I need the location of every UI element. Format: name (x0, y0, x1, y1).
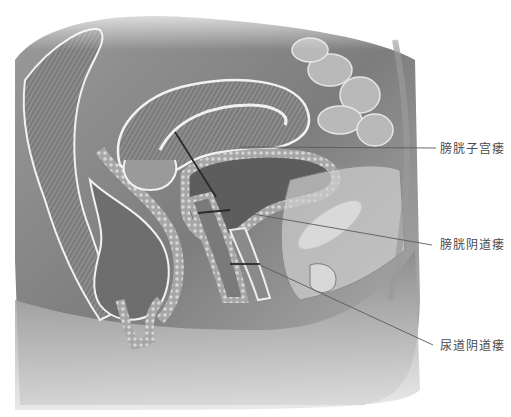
label-vesicovaginal-fistula: 膀胱阴道瘘 (440, 238, 505, 252)
anatomical-diagram: 膀胱子宫瘘 膀胱阴道瘘 尿道阴道瘘 (0, 0, 511, 417)
top-fade (0, 0, 511, 417)
pelvis-illustration (0, 0, 511, 417)
label-vesicouterine-fistula: 膀胱子宫瘘 (440, 142, 505, 156)
label-urethrovaginal-fistula: 尿道阴道瘘 (440, 339, 505, 353)
